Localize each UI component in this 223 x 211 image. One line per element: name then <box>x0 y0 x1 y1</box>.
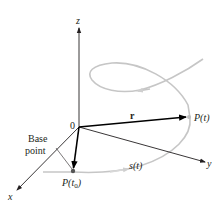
curve-upper-loop <box>90 59 203 118</box>
point-p-t0-label-close: ) <box>77 177 82 189</box>
arc-length-label: s(t) <box>129 160 143 172</box>
curve-lower-portion <box>43 118 190 172</box>
y-axis <box>79 127 205 162</box>
vector-to-base-point <box>74 127 80 168</box>
point-p-t-label: P(t) <box>193 112 210 124</box>
vector-r-label: r <box>130 110 135 121</box>
z-axis-label: z <box>75 15 80 26</box>
space-curve <box>43 59 203 172</box>
space-curve-diagram: z y x 0 r P(t) Base point P(t0) s(t) <box>0 0 223 211</box>
base-point-label-line2: point <box>25 145 46 156</box>
point-p-t0 <box>71 169 75 173</box>
point-p-t0-label: P(t0) <box>61 177 82 190</box>
base-point-label-line1: Base <box>28 133 48 144</box>
point-p-t <box>187 115 191 119</box>
coordinate-axes <box>17 28 205 190</box>
base-point-pointer-line <box>56 148 72 169</box>
y-axis-label: y <box>206 158 212 169</box>
x-axis-label: x <box>7 191 13 202</box>
origin-label: 0 <box>70 120 75 131</box>
point-p-t0-label-main: P(t <box>61 177 74 189</box>
